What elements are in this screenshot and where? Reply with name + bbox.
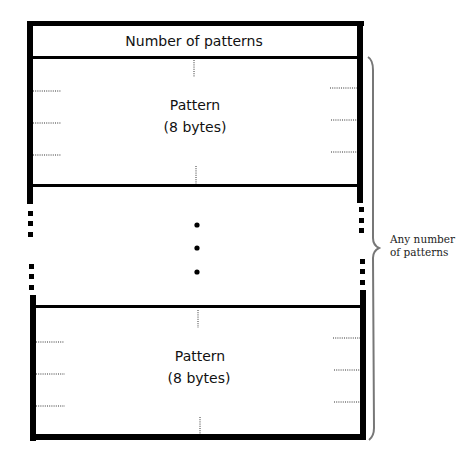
frame-right-border-bottom — [360, 290, 366, 440]
frame-right-border-top — [357, 21, 363, 203]
block2-top-divider — [34, 305, 362, 308]
frame-left-border-top — [27, 21, 33, 204]
pattern-list-diagram: Number of patterns Pattern (8 bytes) Pat… — [0, 0, 476, 453]
left-dotted-ticks — [33, 91, 65, 406]
left-break-marks — [28, 211, 34, 290]
brace-label-line1: Any number — [389, 233, 456, 245]
block1-bottom-divider — [31, 184, 360, 187]
header-label: Number of patterns — [125, 33, 262, 49]
ellipsis-dots — [194, 222, 199, 274]
block2-label-line1: Pattern — [175, 348, 225, 364]
right-break-marks — [359, 207, 365, 285]
brace-label-line2: of patterns — [390, 246, 448, 258]
block2-label-line2: (8 bytes) — [168, 370, 231, 386]
frame-top-border — [27, 21, 364, 26]
frame-left-border-bottom — [30, 295, 36, 441]
header-divider — [31, 56, 360, 59]
block1-label-line1: Pattern — [170, 97, 220, 113]
frame-bottom-border — [32, 434, 366, 440]
right-dotted-ticks — [330, 88, 360, 402]
block1-label-line2: (8 bytes) — [164, 119, 227, 135]
curly-brace-icon — [368, 57, 379, 440]
